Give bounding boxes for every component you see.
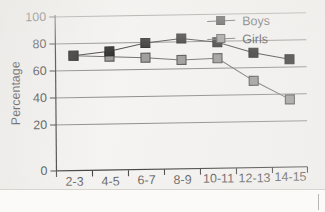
x-axis-title: Age xyxy=(172,191,194,205)
legend-marker-girls-icon xyxy=(217,34,225,42)
y-tick-label-20: 20 xyxy=(33,118,47,132)
x-tick-label-14-15: 14-15 xyxy=(274,170,306,184)
x-tick-label-2-3: 2-3 xyxy=(65,175,83,189)
x-axis-tick-labels: 2-3 4-5 6-7 8-9 10-11 12-13 14-15 xyxy=(65,170,306,189)
y-tick-label-80: 80 xyxy=(32,37,46,51)
y-tick-label-60: 60 xyxy=(33,64,47,78)
y-tick-label-100: 100 xyxy=(25,10,46,24)
boys-point-4-5 xyxy=(105,47,114,56)
y-tick-label-40: 40 xyxy=(33,91,47,105)
boys-point-2-3 xyxy=(69,51,78,60)
x-tick-label-8-9: 8-9 xyxy=(173,173,191,187)
legend-label-boys: Boys xyxy=(242,14,270,28)
legend-item-boys[interactable]: Boys xyxy=(207,14,270,29)
y-axis-line xyxy=(55,15,56,171)
x-tick-label-12-13: 12-13 xyxy=(238,171,270,185)
gridline-40 xyxy=(56,94,307,98)
x-tick-label-6-7: 6-7 xyxy=(137,173,155,187)
y-axis-title: Percentage xyxy=(9,61,24,125)
gridline-60 xyxy=(56,67,307,71)
x-tick-label-4-5: 4-5 xyxy=(101,174,119,188)
girls-point-8-9 xyxy=(177,55,186,64)
x-tick-label-10-11: 10-11 xyxy=(203,171,234,185)
line-chart: 100 80 60 40 20 0 Percentage xyxy=(0,0,325,212)
boys-point-12-13 xyxy=(249,48,258,57)
girls-point-6-7 xyxy=(141,53,150,62)
boys-point-14-15 xyxy=(285,55,294,64)
gridline-20 xyxy=(56,121,307,125)
girls-point-14-15 xyxy=(285,95,294,104)
scan-rotation-wrapper: 100 80 60 40 20 0 Percentage xyxy=(0,0,325,212)
legend-marker-boys-icon xyxy=(217,16,225,24)
chart-legend: Boys Girls xyxy=(207,14,270,47)
legend-label-girls: Girls xyxy=(242,32,268,46)
gridlines xyxy=(55,13,307,125)
y-tick-label-0: 0 xyxy=(40,164,47,178)
y-axis-tick-labels: 100 80 60 40 20 0 xyxy=(25,10,47,178)
boys-point-6-7 xyxy=(141,38,150,47)
chart-screenshot: 100 80 60 40 20 0 Percentage xyxy=(0,0,325,212)
girls-point-12-13 xyxy=(249,76,258,85)
boys-point-8-9 xyxy=(177,34,186,43)
girls-point-10-11 xyxy=(213,54,222,63)
